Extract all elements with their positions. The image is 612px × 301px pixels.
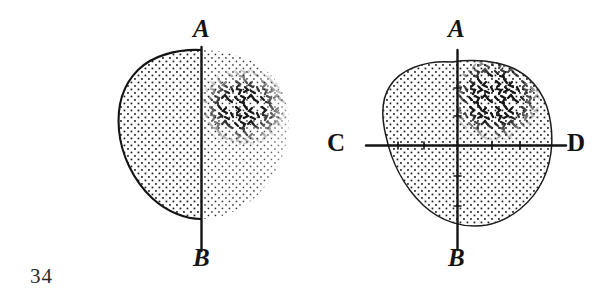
right-figure-label-d: D <box>567 130 585 155</box>
figure-plate: A B A B C D 34 <box>0 0 612 301</box>
figure-right <box>366 50 566 250</box>
left-figure-label-b: B <box>193 245 210 270</box>
right-figure-label-a: A <box>448 16 465 41</box>
left-half-stipple <box>110 40 210 230</box>
right-figure-label-c: C <box>327 130 345 155</box>
left-figure-label-a: A <box>193 16 210 41</box>
figure-number: 34 <box>30 266 53 287</box>
left-figure-dense-patch <box>195 62 295 154</box>
figure-illustration <box>0 0 612 301</box>
figure-left <box>110 40 305 251</box>
right-figure-label-b: B <box>448 245 465 270</box>
